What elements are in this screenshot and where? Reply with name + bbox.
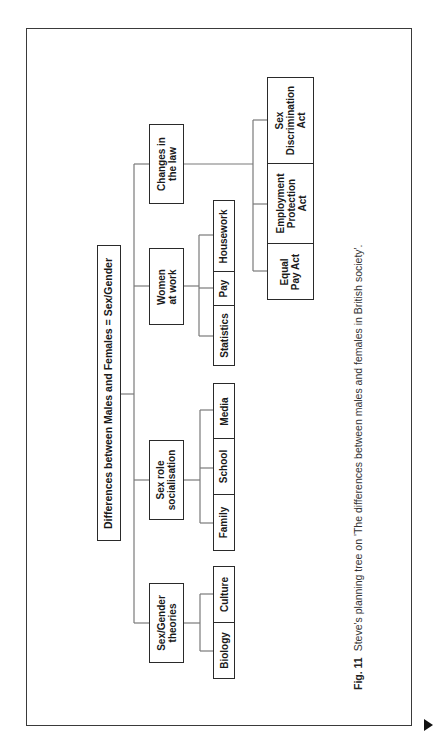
branch-node-changes-in-the-law: Changes in the law [149,124,184,204]
leaf-node-school: School [213,438,235,495]
leaf-node-label: Sex Discrimination Act [274,86,307,155]
leaf-node-culture: Culture [213,566,235,623]
branch-node-sex-gender-theories: Sex/Gender theories [149,583,184,663]
leaf-node-statistics: Statistics [213,305,235,366]
root-node: Differences between Males and Females = … [97,245,121,541]
branch-node-label: Women at work [156,269,178,305]
root-node-label: Differences between Males and Females = … [104,257,115,528]
leaf-node-label: School [219,450,230,483]
leaf-node-housework: Housework [213,200,235,272]
branch-node-label: Sex role socialisation [156,450,178,511]
leaf-node-label: Housework [219,209,230,263]
leaf-node-label: Family [219,507,230,539]
branch-node-label: Changes in the law [156,137,178,191]
leaf-node-family: Family [213,494,235,551]
branch-node-women-at-work: Women at work [149,248,184,325]
leaf-node-equal-pay-act: Equal Pay Act [267,243,314,300]
leaf-node-sex-discrimination-act: Sex Discrimination Act [267,77,314,164]
triangle-right-icon[interactable] [424,719,433,731]
leaf-node-pay: Pay [213,271,235,306]
leaf-node-label: Equal Pay Act [279,253,301,289]
branch-node-sex-role-socialisation: Sex role socialisation [149,440,184,520]
leaf-node-label: Statistics [219,313,230,357]
figure-caption-text: Steve's planning tree on 'The difference… [352,245,364,652]
leaf-node-media: Media [213,383,235,439]
figure-caption: Fig. 11Steve's planning tree on 'The dif… [352,245,364,690]
leaf-node-label: Biology [219,632,230,669]
figure-number: Fig. 11 [352,657,364,690]
leaf-node-biology: Biology [213,622,235,679]
leaf-node-label: Culture [219,577,230,612]
leaf-node-label: Employment Protection Act [274,173,307,233]
leaf-node-label: Pay [218,280,229,298]
leaf-node-employment-protection-act: Employment Protection Act [267,163,314,244]
branch-node-label: Sex/Gender theories [156,595,178,651]
leaf-node-label: Media [219,397,230,425]
